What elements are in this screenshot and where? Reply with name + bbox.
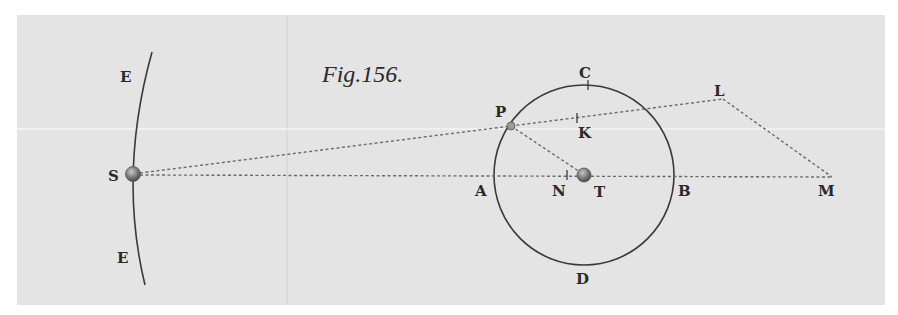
label-K: K [578, 124, 592, 142]
line-S-M [140, 175, 832, 177]
line-P-L [511, 99, 723, 126]
label-C: C [579, 64, 591, 82]
line-L-M [723, 99, 832, 177]
label-E-top: E [120, 68, 131, 86]
line-S-P [140, 126, 511, 173]
label-L: L [714, 82, 725, 100]
label-D: D [576, 270, 589, 288]
label-M: M [818, 182, 835, 200]
label-B: B [678, 182, 691, 200]
figure-title: Fig.156. [321, 61, 403, 87]
label-E-bottom: E [117, 249, 128, 267]
label-T: T [594, 183, 606, 201]
sun-S-icon [126, 167, 141, 182]
label-A: A [474, 182, 487, 200]
diagram-canvas: Fig.156. E E S P C K L A N T B M D [0, 0, 898, 315]
line-P-T [511, 126, 580, 172]
label-S: S [108, 167, 119, 185]
label-N: N [552, 182, 566, 200]
label-P: P [495, 103, 506, 121]
earth-T-icon [577, 168, 591, 182]
moon-P-icon [507, 122, 515, 130]
